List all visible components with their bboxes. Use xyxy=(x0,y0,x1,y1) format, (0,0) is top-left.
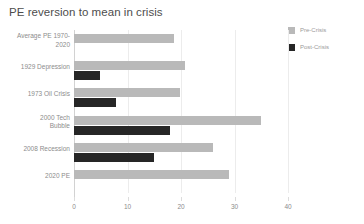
bar[interactable] xyxy=(74,116,261,125)
x-tick-label-0: 0 xyxy=(72,203,76,210)
x-tick-mark-20 xyxy=(181,197,182,201)
x-tick-mark-10 xyxy=(128,197,129,201)
x-tick-mark-0 xyxy=(74,197,75,201)
category-label-line: 1929 Depression xyxy=(0,63,70,72)
x-tick-mark-40 xyxy=(288,197,289,201)
legend-label-pre-crisis: Pre-Crisis xyxy=(300,26,326,34)
legend-item-post-crisis[interactable]: Post-Crisis xyxy=(288,41,360,53)
bar[interactable] xyxy=(74,143,213,152)
bar-group xyxy=(74,30,288,57)
category-label-line: 2020 xyxy=(0,41,70,50)
bar[interactable] xyxy=(74,126,170,135)
legend-swatch-post-crisis xyxy=(288,44,295,51)
category-label-line: Bubble xyxy=(0,122,70,131)
bar[interactable] xyxy=(74,71,100,80)
bar[interactable] xyxy=(74,88,180,97)
category-label: 1973 Oil Crisis xyxy=(0,90,70,99)
category-label-line: 2000 Tech xyxy=(0,114,70,123)
category-label: 2020 PE xyxy=(0,172,70,181)
bar-group xyxy=(74,166,288,193)
bar[interactable] xyxy=(74,153,154,162)
chart-container: PE reversion to mean in crisis Pre-Crisi… xyxy=(0,0,364,224)
category-label: 2000 TechBubble xyxy=(0,114,70,131)
bar-group xyxy=(74,57,288,84)
chart-title: PE reversion to mean in crisis xyxy=(9,6,163,18)
x-tick-label-40: 40 xyxy=(284,203,291,210)
legend-item-pre-crisis[interactable]: Pre-Crisis xyxy=(288,24,360,36)
bar[interactable] xyxy=(74,170,229,179)
bar[interactable] xyxy=(74,61,185,70)
category-label-line: Average PE 1970- xyxy=(0,32,70,41)
category-label: Average PE 1970-2020 xyxy=(0,32,70,49)
x-tick-mark-30 xyxy=(235,197,236,201)
x-tick-label-30: 30 xyxy=(231,203,238,210)
category-label: 2008 Recession xyxy=(0,145,70,154)
bar-group xyxy=(74,112,288,139)
x-tick-label-10: 10 xyxy=(124,203,131,210)
category-label: 1929 Depression xyxy=(0,63,70,72)
category-label-line: 2008 Recession xyxy=(0,145,70,154)
x-tick-label-20: 20 xyxy=(177,203,184,210)
category-label-line: 2020 PE xyxy=(0,172,70,181)
legend-label-post-crisis: Post-Crisis xyxy=(300,43,329,51)
bar[interactable] xyxy=(74,98,116,107)
gridline-40 xyxy=(288,30,289,193)
bar[interactable] xyxy=(74,34,174,43)
bar-group xyxy=(74,84,288,111)
chart-legend: Pre-Crisis Post-Crisis xyxy=(288,24,360,58)
plot-area xyxy=(74,30,288,193)
category-label-line: 1973 Oil Crisis xyxy=(0,90,70,99)
bar-group xyxy=(74,139,288,166)
legend-swatch-pre-crisis xyxy=(288,27,295,34)
